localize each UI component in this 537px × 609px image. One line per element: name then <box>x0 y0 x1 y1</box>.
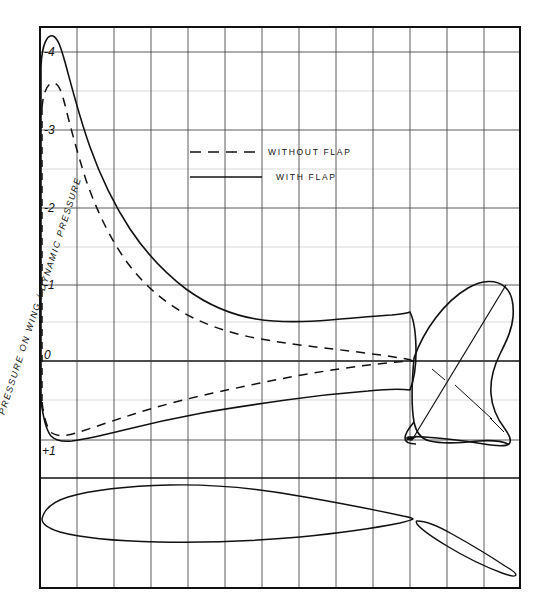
curve-without-flap-upper <box>42 83 413 361</box>
curve-flap-loop <box>407 281 514 445</box>
y-tick-label-minus2: -2 <box>44 201 55 215</box>
curve-without-flap-lower <box>42 361 413 436</box>
y-tick-label-minus4: -4 <box>44 45 55 59</box>
y-tick-label-plus1: +1 <box>42 444 56 458</box>
y-tick-label-minus3: -3 <box>44 123 55 137</box>
major-gridlines-vertical <box>77 27 484 588</box>
minor-gridlines <box>40 91 520 400</box>
airfoil-main-profile <box>42 485 413 542</box>
airfoil-flap-profile <box>416 521 516 576</box>
flap-annotation-leaders <box>432 369 504 432</box>
legend-label-without-flap: WITHOUT FLAP <box>268 147 352 157</box>
curve-with-flap-lower <box>41 389 410 441</box>
major-gridlines-horizontal <box>40 52 520 440</box>
y-tick-label-minus1: -1 <box>44 278 55 292</box>
flap-chord-line <box>412 285 506 440</box>
pressure-distribution-figure: -4 -3 -2 -1 0 +1 <box>0 0 537 609</box>
y-tick-label-zero: 0 <box>44 348 51 362</box>
curve-with-flap-upper <box>41 36 410 322</box>
plot-frame <box>40 27 520 588</box>
legend-label-with-flap: WITH FLAP <box>276 172 337 182</box>
